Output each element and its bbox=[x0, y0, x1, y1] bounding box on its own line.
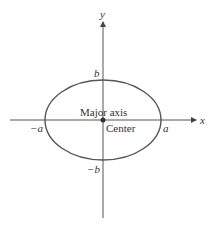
label-major-axis: Major axis bbox=[80, 106, 127, 118]
center-point bbox=[101, 118, 106, 123]
label-a: a bbox=[163, 122, 169, 134]
label-b: b bbox=[94, 67, 100, 79]
y-axis-label: y bbox=[99, 8, 105, 20]
label-center: Center bbox=[106, 122, 136, 134]
ellipse-diagram: y x b −b a −a Major axis Center bbox=[0, 0, 213, 228]
label-neg-a: −a bbox=[30, 122, 43, 134]
label-neg-b: −b bbox=[87, 163, 100, 175]
x-axis-label: x bbox=[199, 114, 205, 126]
